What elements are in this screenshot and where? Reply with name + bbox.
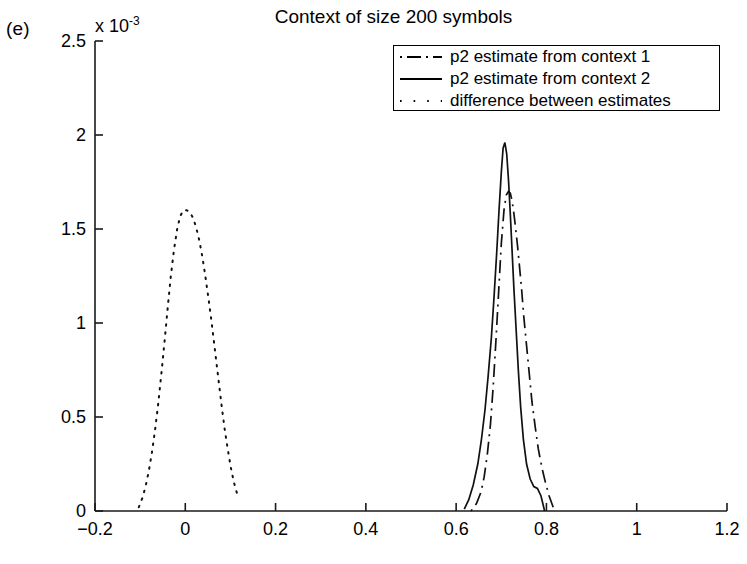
legend-swatch-dash-dot-icon <box>394 47 450 67</box>
x-tick-label: 1 <box>632 519 642 540</box>
x-tick-label: −0.2 <box>77 519 113 540</box>
y-tick-label: 0 <box>20 501 86 522</box>
x-axis-ticks <box>95 503 727 511</box>
y-tick-label: 0.5 <box>20 407 86 428</box>
legend-label-2: difference between estimates <box>450 91 671 111</box>
figure-root: (e) x 10-3 Context of size 200 symbols 0… <box>0 0 747 564</box>
legend-entry-1: p2 estimate from context 2 <box>394 68 719 90</box>
x-tick-label: 0.6 <box>444 519 469 540</box>
legend-label-1: p2 estimate from context 2 <box>450 69 650 89</box>
y-tick-label: 1 <box>20 313 86 334</box>
y-tick-label: 2.5 <box>20 31 86 52</box>
series-line-2 <box>139 210 241 507</box>
legend-entry-0: p2 estimate from context 1 <box>394 46 719 68</box>
legend: p2 estimate from context 1 p2 estimate f… <box>393 45 720 111</box>
legend-label-0: p2 estimate from context 1 <box>450 47 650 67</box>
y-tick-label: 1.5 <box>20 219 86 240</box>
y-tick-label: 2 <box>20 125 86 146</box>
series-line-1 <box>464 143 544 511</box>
legend-entry-2: difference between estimates <box>394 90 719 112</box>
legend-swatch-solid-icon <box>394 69 450 89</box>
x-tick-label: 0.2 <box>263 519 288 540</box>
x-tick-label: 0 <box>180 519 190 540</box>
x-tick-label: 1.2 <box>714 519 739 540</box>
x-tick-label: 0.8 <box>534 519 559 540</box>
data-series-group <box>139 143 553 511</box>
y-axis-ticks <box>95 41 103 511</box>
x-tick-label: 0.4 <box>353 519 378 540</box>
legend-swatch-dotted-icon <box>394 91 450 111</box>
